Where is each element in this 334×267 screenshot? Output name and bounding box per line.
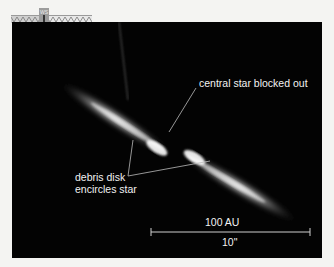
label-central-star: central star blocked out xyxy=(199,77,308,89)
scale-label-arcsec: 10" xyxy=(222,236,237,248)
label-debris-disk-2: encircles star xyxy=(75,183,137,195)
debris-disk-image xyxy=(12,22,322,258)
leader-central-star xyxy=(169,88,196,132)
leader-disk-1 xyxy=(128,140,133,176)
label-debris-disk-1: debris disk xyxy=(75,171,125,183)
image-panel: central star blocked out debris disk enc… xyxy=(12,22,322,258)
compass-label: WS xyxy=(40,9,49,15)
scale-label-au: 100 AU xyxy=(205,216,239,228)
disk-lobe-upper xyxy=(52,73,179,164)
diffraction-spike xyxy=(119,22,128,100)
